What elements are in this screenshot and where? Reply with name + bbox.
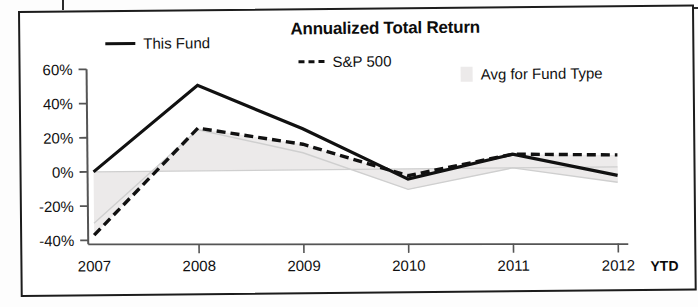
x-axis-ytd-label: YTD — [650, 258, 678, 274]
y-tick-label: 20% — [43, 129, 73, 146]
x-tick-label: 2007 — [78, 257, 112, 274]
scanned-page: Annualized Total Return This Fund S&P 50… — [0, 0, 698, 307]
chart-container: Annualized Total Return This Fund S&P 50… — [20, 7, 695, 295]
x-tick-label: 2011 — [497, 257, 529, 274]
y-tick-label: 0% — [52, 164, 74, 181]
y-tick-label: 60% — [42, 61, 72, 78]
y-tick-label: -20% — [39, 198, 74, 215]
scan-artifact-left-rule — [62, 0, 64, 10]
x-tick-label: 2009 — [287, 257, 321, 274]
x-tick-label: 2008 — [182, 257, 216, 274]
series-line-sp-500 — [93, 124, 618, 235]
y-tick-label: 40% — [43, 95, 73, 112]
chart-svg: 60%40%20%0%-20%-40%200720082009201020112… — [20, 7, 695, 295]
x-tick-label: 2012 — [602, 256, 636, 273]
x-tick-label: 2010 — [392, 257, 426, 274]
chart-frame: Annualized Total Return This Fund S&P 50… — [18, 5, 697, 297]
series-area-avg-fund-type — [93, 124, 618, 235]
y-tick-label: -40% — [39, 232, 74, 249]
plot-area: 60%40%20%0%-20%-40%200720082009201020112… — [20, 7, 695, 295]
